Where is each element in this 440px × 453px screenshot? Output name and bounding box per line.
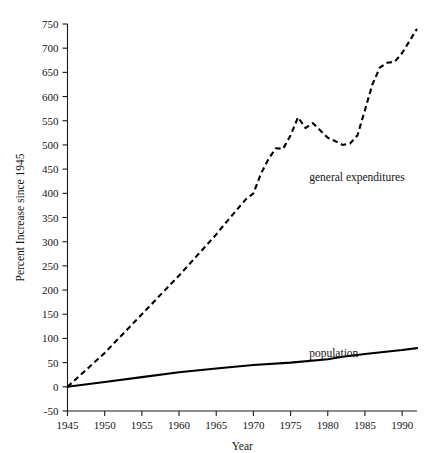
y-axis-tick-label: 150 xyxy=(42,308,59,320)
x-axis-title: Year xyxy=(232,440,253,452)
y-axis-tick-group: -500501001502002503003504004505005506006… xyxy=(42,18,68,417)
series-label-general-expenditures: general expenditures xyxy=(309,171,405,184)
x-axis-tick-label: 1975 xyxy=(280,419,303,431)
y-axis-tick-label: 250 xyxy=(42,260,59,272)
y-axis-title: Percent Increase since 1945 xyxy=(14,153,26,281)
chart-container: -500501001502002503003504004505005506006… xyxy=(0,0,440,453)
x-axis-tick-label: 1955 xyxy=(131,419,154,431)
x-axis-tick-label: 1950 xyxy=(94,419,117,431)
y-axis-tick-label: -50 xyxy=(44,405,59,417)
x-axis-tick-label: 1980 xyxy=(317,419,340,431)
y-axis-tick-label: 0 xyxy=(53,381,59,393)
y-axis-tick-label: 300 xyxy=(42,236,59,248)
y-axis-tick-label: 350 xyxy=(42,212,59,224)
x-axis-tick-label: 1945 xyxy=(57,419,80,431)
x-axis-tick-group: 1945195019551960196519701975198019851990 xyxy=(57,411,414,431)
y-axis-tick-label: 700 xyxy=(42,42,59,54)
y-axis-tick-label: 200 xyxy=(42,284,59,296)
x-axis-tick-label: 1970 xyxy=(242,419,265,431)
x-axis-tick-label: 1990 xyxy=(391,419,414,431)
y-axis-tick-label: 600 xyxy=(42,91,59,103)
y-axis-tick-label: 400 xyxy=(42,187,59,199)
y-axis-tick-label: 550 xyxy=(42,115,59,127)
line-chart-svg: -500501001502002503003504004505005506006… xyxy=(0,0,440,453)
y-axis-tick-label: 100 xyxy=(42,332,59,344)
series-label-population: population xyxy=(309,347,358,360)
x-axis-tick-label: 1960 xyxy=(168,419,191,431)
x-axis-tick-label: 1965 xyxy=(205,419,228,431)
y-axis-tick-label: 450 xyxy=(42,163,59,175)
y-axis-tick-label: 50 xyxy=(48,357,60,369)
series-line-population xyxy=(68,348,418,387)
y-axis-tick-label: 500 xyxy=(42,139,59,151)
x-axis-tick-label: 1985 xyxy=(354,419,377,431)
y-axis-tick-label: 650 xyxy=(42,66,59,78)
y-axis-tick-label: 750 xyxy=(42,18,59,30)
series-line-general-expenditures xyxy=(68,29,418,387)
